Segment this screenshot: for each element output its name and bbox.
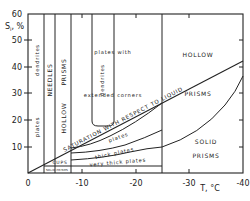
label-extended-corners: extended corners xyxy=(84,92,142,98)
y-tick-40: 40 xyxy=(12,63,22,72)
label-prisms-left: PRISMS xyxy=(60,58,67,85)
y-tick-labels: 60 50 40 30 20 10 xyxy=(12,10,22,152)
x-tick-0: 0 xyxy=(25,179,30,188)
x-tick-minus10: -10 xyxy=(75,179,88,188)
label-solid-prisms-small: SOLID PRISMS xyxy=(46,168,68,172)
label-plates-mid: plates xyxy=(108,131,130,145)
region-labels: dendrites plates NEEDLES PRISMS HOLLOW p… xyxy=(34,44,220,172)
x-tick-minus20: -20 xyxy=(129,179,142,188)
label-dendrites-mid: dendrites xyxy=(99,64,105,96)
solid-prisms-curve xyxy=(162,76,243,147)
y-tick-60: 60 xyxy=(12,10,22,19)
y-tick-10: 10 xyxy=(12,143,22,152)
ice-crystal-habit-diagram: 60 50 40 30 20 10 0 -10 -20 -30 -40 Si, … xyxy=(0,0,250,201)
label-solid-right: SOLID xyxy=(195,138,217,145)
label-hollow-right: HOLLOW xyxy=(182,51,213,58)
y-tick-20: 20 xyxy=(12,116,22,125)
label-prisms-right-upper: PRISMS xyxy=(184,90,211,97)
label-plates-left: plates xyxy=(34,117,41,138)
label-plates-with: plates with xyxy=(94,49,131,56)
label-dendrites-left: dendrites xyxy=(34,44,40,76)
x-axis-title: T, °C xyxy=(199,184,220,193)
y-axis-title: Si, % xyxy=(5,22,25,32)
x-tick-minus40: -40 xyxy=(236,179,249,188)
label-needles: NEEDLES xyxy=(46,63,53,96)
y-tick-50: 50 xyxy=(12,36,22,45)
label-hollow-left: HOLLOW xyxy=(60,102,67,133)
label-prisms-right-lower: PRISMS xyxy=(192,152,219,159)
label-cups: CUPS xyxy=(52,160,67,165)
y-tick-30: 30 xyxy=(12,89,22,98)
x-tick-minus30: -30 xyxy=(182,179,195,188)
